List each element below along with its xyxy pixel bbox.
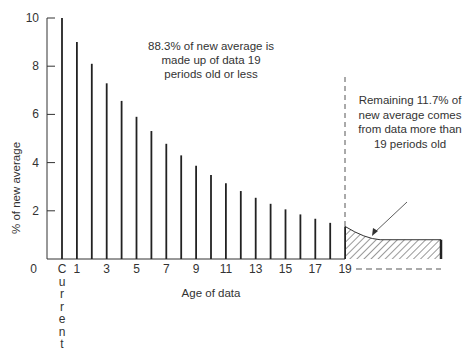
x-tick-label: 13 <box>249 262 263 276</box>
x-tick-label-current: t <box>60 337 64 351</box>
y-tick-label: 6 <box>32 107 39 121</box>
x-tick-label: 5 <box>133 262 140 276</box>
chart: 0246810 Current135791113151719 88.3% of … <box>0 0 470 358</box>
x-tick-label: 1 <box>74 262 81 276</box>
y-ticks: 0246810 <box>26 11 55 276</box>
x-tick-label: 9 <box>193 262 200 276</box>
y-tick-label: 4 <box>32 156 39 170</box>
annotation-arrow <box>372 202 407 236</box>
y-tick-label: 2 <box>32 204 39 218</box>
tail-region <box>345 226 441 259</box>
x-tick-label: 17 <box>309 262 323 276</box>
x-tick-label: 7 <box>163 262 170 276</box>
annotation-recent-share: 88.3% of new average ismade up of data 1… <box>148 40 274 80</box>
x-tick-labels: Current135791113151719 <box>58 262 352 351</box>
x-axis-label: Age of data <box>182 287 241 299</box>
y-tick-label: 10 <box>26 11 40 25</box>
x-tick-label: 3 <box>103 262 110 276</box>
x-tick-label: 15 <box>279 262 293 276</box>
x-tick-label: 11 <box>220 262 233 276</box>
x-tick-label: 19 <box>338 262 352 276</box>
y-tick-label: 8 <box>32 59 39 73</box>
annotation-remaining-share: Remaining 11.7% ofnew average comesfrom … <box>358 94 462 150</box>
y-axis-label: % of new average <box>10 142 22 234</box>
y-tick-label: 0 <box>30 262 37 276</box>
